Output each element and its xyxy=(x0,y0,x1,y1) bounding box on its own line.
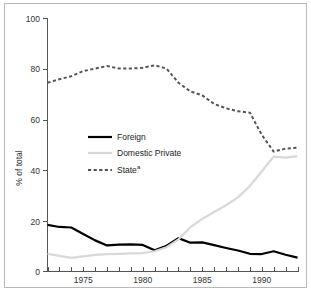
chart-legend: Foreign Domestic Private State a xyxy=(88,132,182,175)
y-tick-label-20: 20 xyxy=(31,217,41,227)
chart-figure: 100 80 60 40 20 0 % of total 1975 1980 1… xyxy=(0,0,311,300)
x-tick-label-1990: 1990 xyxy=(252,275,271,285)
series-line-domestic-private xyxy=(48,156,298,258)
x-tick-label-1985: 1985 xyxy=(193,275,212,285)
series-lines xyxy=(48,65,298,258)
series-line-state xyxy=(48,65,298,151)
y-axis-ticks xyxy=(43,19,48,272)
legend-label-domestic-private: Domestic Private xyxy=(117,148,182,158)
x-tick-label-1975: 1975 xyxy=(74,275,93,285)
line-chart: 100 80 60 40 20 0 % of total 1975 1980 1… xyxy=(0,0,311,300)
y-tick-label-40: 40 xyxy=(31,166,41,176)
y-tick-label-100: 100 xyxy=(26,14,40,24)
y-axis-title: % of total xyxy=(14,150,24,186)
x-tick-label-1980: 1980 xyxy=(133,275,152,285)
legend-label-foreign: Foreign xyxy=(117,132,146,142)
y-tick-label-60: 60 xyxy=(31,115,41,125)
y-tick-label-0: 0 xyxy=(35,267,40,277)
legend-superscript-state: a xyxy=(137,164,141,170)
x-axis-ticks xyxy=(49,267,299,272)
legend-label-state: State xyxy=(117,165,137,175)
series-line-foreign xyxy=(48,225,298,258)
y-tick-label-80: 80 xyxy=(31,64,41,74)
